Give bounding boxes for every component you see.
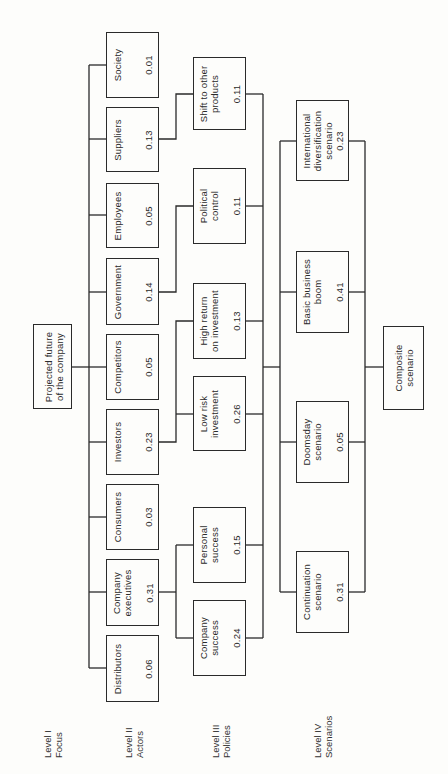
policy-box-shift-to-other-products: Shift to other products0.11 bbox=[193, 57, 246, 130]
scenario-value: 0.05 bbox=[334, 432, 345, 451]
actor-value: 0.31 bbox=[144, 583, 155, 602]
actor-box-competitors: Competitors0.05 bbox=[106, 334, 159, 400]
actor-label: Suppliers bbox=[112, 119, 123, 160]
actor-box-society: Society0.01 bbox=[106, 32, 159, 98]
policy-box-high-return-on-investment: High return on investment0.13 bbox=[193, 283, 246, 359]
actor-value: 0.06 bbox=[143, 659, 154, 678]
actor-value: 0.01 bbox=[143, 55, 154, 74]
policy-value: 0.13 bbox=[231, 311, 242, 330]
actor-label: Investors bbox=[112, 422, 123, 462]
actor-box-employees: Employees0.05 bbox=[106, 183, 159, 248]
actor-box-government: Government0.14 bbox=[106, 258, 159, 325]
policy-label: Personal success bbox=[198, 525, 220, 564]
scenario-label: International diversification scenario bbox=[301, 110, 334, 171]
level-label-focus: Level I Focus bbox=[42, 730, 64, 758]
policy-box-company-success: Company success0.24 bbox=[193, 600, 246, 676]
actor-label: Government bbox=[112, 264, 123, 318]
level-label-scenarios: Level IV Scenarios bbox=[312, 716, 334, 758]
actor-label: Competitors bbox=[112, 340, 123, 393]
actor-value: 0.05 bbox=[143, 206, 154, 225]
actor-label: Distributors bbox=[112, 643, 123, 693]
level-label-actors: Level II Actors bbox=[123, 727, 145, 758]
actor-value: 0.14 bbox=[143, 282, 154, 301]
actor-label: Company executives bbox=[111, 569, 133, 616]
actor-box-distributors: Distributors0.06 bbox=[106, 635, 159, 702]
actor-label: Employees bbox=[112, 191, 123, 240]
scenario-box-continuation: Continuation scenario0.31 bbox=[296, 551, 349, 633]
actor-label: Society bbox=[112, 49, 123, 82]
scenario-label: Basic business boom bbox=[301, 259, 323, 325]
actor-value: 0.13 bbox=[143, 130, 154, 149]
policy-value: 0.24 bbox=[231, 628, 242, 647]
scenario-label: Doomsday scenario bbox=[301, 419, 323, 466]
scenario-value: 0.41 bbox=[334, 282, 345, 301]
composite-label: Composite scenario bbox=[393, 344, 415, 391]
policy-label: Shift to other products bbox=[198, 65, 220, 122]
policy-label: Company success bbox=[198, 617, 220, 659]
scenario-value: 0.23 bbox=[334, 131, 345, 150]
policy-box-personal-success: Personal success0.15 bbox=[193, 507, 246, 583]
actor-value: 0.05 bbox=[143, 357, 154, 376]
actor-box-suppliers: Suppliers0.13 bbox=[106, 107, 159, 172]
actor-box-company-executives: Company executives0.31 bbox=[106, 559, 159, 626]
composite-scenario-box: Composite scenario bbox=[383, 326, 424, 410]
policy-value: 0.11 bbox=[231, 84, 242, 103]
policy-value: 0.15 bbox=[231, 535, 242, 554]
actor-label: Consumers bbox=[112, 492, 123, 542]
scenario-box-basic-business-boom: Basic business boom0.41 bbox=[296, 251, 349, 333]
focus-box: Projected future of the company bbox=[33, 324, 72, 409]
scenario-label: Continuation scenario bbox=[301, 564, 323, 620]
focus-label: Projected future of the company bbox=[42, 331, 64, 401]
policy-value: 0.26 bbox=[231, 404, 242, 423]
actor-box-investors: Investors0.23 bbox=[106, 409, 159, 475]
policy-label: Low risk investment bbox=[198, 390, 220, 438]
level-label-policies: Level III Policies bbox=[210, 725, 232, 758]
scenario-box-international-diversification: International diversification scenario0.… bbox=[296, 100, 349, 181]
policy-label: High return on investment bbox=[198, 290, 220, 352]
policy-label: Political control bbox=[198, 189, 220, 224]
policy-box-political-control: Political control0.11 bbox=[193, 168, 246, 244]
actor-box-consumers: Consumers0.03 bbox=[106, 484, 159, 550]
policy-box-low-risk-investment: Low risk investment0.26 bbox=[193, 376, 246, 451]
scenario-value: 0.31 bbox=[334, 582, 345, 601]
policy-value: 0.11 bbox=[231, 197, 242, 216]
actor-value: 0.23 bbox=[143, 432, 154, 451]
actor-value: 0.03 bbox=[143, 507, 154, 526]
scenario-box-doomsday: Doomsday scenario0.05 bbox=[296, 401, 349, 483]
